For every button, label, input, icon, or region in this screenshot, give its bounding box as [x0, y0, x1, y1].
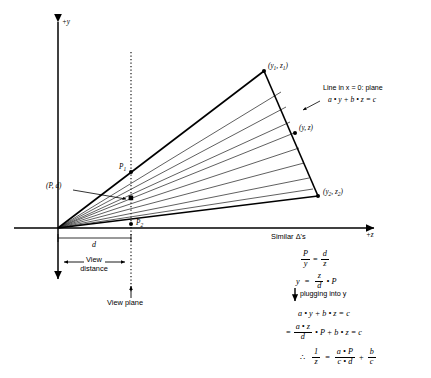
label-p2: P2: [136, 219, 143, 229]
equation-4: = a • z d • P + b • z = c: [286, 323, 362, 341]
eq5-lhs-den: z: [312, 357, 320, 367]
label-view-distance: View distance: [69, 256, 119, 273]
eq2-operator: =: [302, 277, 313, 286]
eq5-term1-fraction: a • P c • d: [335, 348, 355, 366]
eq1-right-den: z: [321, 259, 329, 269]
eq1-left-den: y: [301, 259, 310, 269]
eq1-operator: =: [313, 255, 318, 264]
point-y2z2: [316, 194, 320, 198]
label-y2-z2: (y2, z2): [323, 188, 343, 198]
projector-rays: [58, 92, 313, 228]
eq2-den: d: [315, 281, 323, 291]
eq2-lhs: y: [296, 277, 300, 286]
eq4-den: d: [294, 332, 312, 342]
eq4-tail: • P + b • z = c: [315, 328, 362, 337]
perspective-projection-diagram: +y +z (y1, z1) (y, z) (y2, z2) P1 (P, d)…: [0, 0, 431, 378]
equation-2: y = z d • P: [296, 272, 336, 290]
label-p1: P1: [119, 163, 126, 173]
equation-5: ∴ 1 z = a • P c • d + b c: [300, 348, 377, 366]
eq4-operator: =: [286, 328, 291, 337]
eq5-therefore: ∴: [300, 353, 309, 362]
eq1-left-num: P: [301, 250, 310, 259]
point-p1: [129, 170, 133, 174]
point-p-d: [129, 196, 134, 201]
eq4-fraction: a • z d: [294, 323, 312, 341]
label-view-distance-line2: distance: [80, 264, 108, 273]
eq5-plus: +: [358, 353, 365, 362]
label-p1-sub: 1: [123, 166, 126, 172]
eq2-fraction: z d: [315, 272, 323, 290]
point-yz: [293, 131, 297, 135]
point-p2: [129, 222, 133, 226]
equation-1: P y = d z: [300, 250, 330, 268]
label-p2-sub: 2: [140, 222, 143, 228]
label-p-d: (P, d): [46, 182, 61, 190]
eq4-num: a • z: [294, 323, 312, 332]
eq5-t2-den: c: [368, 357, 376, 367]
point-y1z1: [262, 69, 266, 73]
label-y1-z1: (y1, z1): [268, 62, 288, 72]
leader-plane-equation: [303, 101, 320, 110]
eq5-t1-den: c • d: [335, 357, 355, 367]
eq5-lhs-fraction: 1 z: [312, 348, 320, 366]
label-y1-z1-end: ): [285, 62, 287, 70]
equation-3: a • y + b • z = c: [298, 309, 350, 318]
eq1-right-fraction: d z: [321, 250, 329, 268]
label-d: d: [92, 240, 96, 249]
label-plane-equation: a • y + b • z = c: [328, 96, 376, 105]
eq5-t1-num: a • P: [335, 348, 355, 357]
y-axis-label: +y: [62, 18, 70, 26]
eq2-num: z: [315, 272, 323, 281]
diagram-svg: [0, 0, 431, 378]
eq5-lhs-num: 1: [312, 348, 320, 357]
eq2-tail: • P: [327, 277, 337, 286]
label-similar-triangles: Similar Δ's: [271, 233, 306, 242]
eq5-term2-fraction: b c: [368, 348, 376, 366]
eq5-t2-num: b: [368, 348, 376, 357]
label-line-in-plane: Line in x = 0: plane: [323, 84, 383, 92]
eq1-right-num: d: [321, 250, 329, 259]
z-axis-label: +z: [366, 231, 374, 239]
label-view-plane: View plane: [107, 299, 143, 308]
label-y-z: (y, z): [299, 124, 313, 132]
eq1-left-fraction: P y: [301, 250, 310, 268]
label-y2-z2-end: ): [340, 188, 342, 196]
label-plugging-into: plugging into y: [300, 290, 346, 298]
eq5-operator: =: [323, 353, 332, 362]
